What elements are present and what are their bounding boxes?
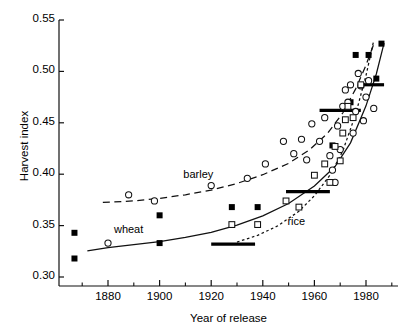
data-point-open-circle (365, 78, 371, 84)
data-point-open-circle (353, 108, 359, 114)
data-point-open-square (255, 222, 261, 228)
data-point-filled-square (378, 41, 384, 47)
data-point-open-circle (363, 94, 369, 100)
data-point-open-circle (316, 138, 322, 144)
data-point-open-circle (347, 82, 353, 88)
data-point-filled-square (71, 230, 77, 236)
data-point-open-square (340, 130, 346, 136)
data-point-filled-square (229, 204, 235, 210)
data-point-open-circle (262, 161, 268, 167)
data-point-open-square (337, 158, 343, 164)
chart-canvas (0, 0, 409, 335)
data-point-filled-square (366, 52, 372, 58)
data-points-barley (105, 70, 377, 246)
data-point-open-circle (208, 182, 214, 188)
data-point-open-circle (244, 175, 250, 181)
data-point-open-circle (360, 118, 366, 124)
data-point-filled-square (255, 204, 261, 210)
fit-curve-line-barley (103, 44, 374, 202)
data-point-open-circle (335, 123, 341, 129)
data-point-open-square (345, 103, 351, 109)
data-point-open-circle (322, 115, 328, 121)
data-point-filled-square (157, 240, 163, 246)
data-point-filled-square (71, 256, 77, 262)
data-point-open-circle (126, 192, 132, 198)
fit-curve-rice (237, 41, 374, 242)
data-point-open-square (350, 115, 356, 121)
data-point-open-circle (329, 167, 335, 173)
data-point-open-square (332, 144, 338, 150)
data-point-open-square (322, 161, 328, 167)
data-point-open-circle (355, 70, 361, 76)
data-point-filled-square (353, 52, 359, 58)
data-point-filled-square (373, 76, 379, 82)
data-point-filled-square (157, 212, 163, 218)
fit-curve-line-rice (237, 41, 374, 242)
data-point-open-square (312, 172, 318, 178)
data-point-open-circle (151, 198, 157, 204)
data-point-open-circle (342, 87, 348, 93)
harvest-index-chart-figure: 0.300.350.400.450.500.551880190019201940… (0, 0, 409, 335)
data-point-open-circle (327, 153, 333, 159)
data-point-open-circle (309, 121, 315, 127)
data-point-open-circle (280, 138, 286, 144)
data-point-open-square (283, 198, 289, 204)
data-point-open-circle (304, 157, 310, 163)
data-point-open-square (342, 117, 348, 123)
data-point-open-square (327, 180, 333, 186)
data-point-open-circle (298, 136, 304, 142)
data-point-open-square (296, 204, 302, 210)
data-point-open-circle (371, 105, 377, 111)
data-point-open-circle (105, 240, 111, 246)
fit-curve-barley (103, 44, 374, 202)
data-point-open-circle (291, 151, 297, 157)
mean-bars-wheat (211, 85, 384, 244)
data-point-open-square (229, 222, 235, 228)
data-point-open-circle (350, 130, 356, 136)
data-point-open-square (358, 82, 364, 88)
